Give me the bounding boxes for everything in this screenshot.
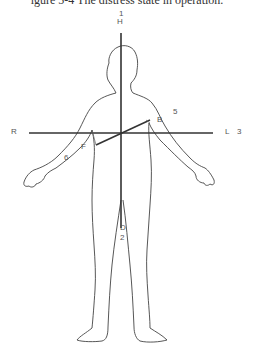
axes <box>29 33 213 228</box>
human-figure-diagram <box>0 0 254 354</box>
label-point-b: B <box>157 116 162 124</box>
label-left: L <box>225 128 229 136</box>
label-arm-right-number: 6 <box>64 154 68 162</box>
label-bottom-number: 2 <box>120 234 124 242</box>
label-point-d: D <box>120 224 126 232</box>
label-right: R <box>11 128 17 136</box>
label-point-f: F <box>81 143 86 151</box>
label-arm-left-number: 5 <box>173 108 177 116</box>
label-head: H <box>117 18 123 26</box>
body-outline <box>24 46 214 342</box>
label-left-number: 3 <box>237 128 241 136</box>
